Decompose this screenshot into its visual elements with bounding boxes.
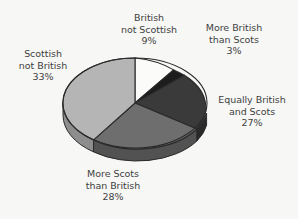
pie-label-line-2: than British [58,180,168,192]
pie-label-british-not-scottish: British not Scottish 9% [104,12,194,47]
pie-label-value: 33% [2,71,84,83]
pie-label-line-1: British [104,12,194,24]
pie-label-line-1: More British [186,22,282,34]
pie-label-line-1: Scottish [2,48,84,60]
pie-label-value: 3% [186,45,282,57]
pie-label-line-2: and Scots [208,106,296,118]
pie-label-line-1: Equally British [208,94,296,106]
pie-label-equally-british-and-scots: Equally British and Scots 27% [208,94,296,129]
pie-chart-figure: British not Scottish 9% More British tha… [0,0,298,219]
pie-label-value: 9% [104,35,194,47]
pie-label-value: 28% [58,191,168,203]
pie-label-more-british-than-scots: More British than Scots 3% [186,22,282,57]
pie-label-scottish-not-british: Scottish not British 33% [2,48,84,83]
pie-label-more-scots-than-british: More Scots than British 28% [58,168,168,203]
pie-label-line-1: More Scots [58,168,168,180]
pie-label-line-2: not British [2,60,84,72]
pie-label-value: 27% [208,117,296,129]
pie-label-line-2: not Scottish [104,24,194,36]
pie-label-line-2: than Scots [186,34,282,46]
